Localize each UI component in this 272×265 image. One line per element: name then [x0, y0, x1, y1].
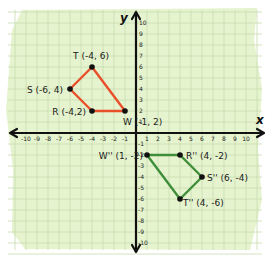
x-tick-label: 1 [145, 135, 149, 142]
y-axis-label: y [120, 11, 129, 25]
vertex-label: W'' (1, -2) [99, 151, 143, 161]
y-tick-label: 10 [139, 19, 147, 26]
y-tick-label: -5 [138, 184, 144, 191]
x-tick-label: -8 [45, 135, 51, 142]
y-tick-label: -10 [138, 239, 148, 246]
vertex-label: S'' (6, -4) [207, 173, 248, 183]
y-tick-label: 9 [139, 30, 143, 37]
x-tick-label: 7 [211, 135, 215, 142]
x-tick-label: 4 [178, 135, 182, 142]
x-tick-label: 9 [233, 135, 237, 142]
vertex-label: W (-1, 2) [123, 117, 162, 127]
y-tick-label: 5 [139, 74, 143, 81]
vertex-point [89, 108, 95, 114]
y-tick-label: 2 [139, 107, 143, 114]
x-tick-label: -5 [78, 135, 84, 142]
y-tick-label: -8 [138, 217, 144, 224]
x-axis-label: x [255, 113, 265, 127]
x-tick-label: -7 [56, 135, 62, 142]
vertex-point [67, 86, 73, 92]
x-tick-label: 10 [242, 135, 250, 142]
x-tick-label: 5 [189, 135, 193, 142]
y-tick-label: -1 [138, 140, 144, 147]
vertex-label: T (-4, 6) [72, 51, 109, 61]
vertex-label: R (-4,2) [52, 107, 86, 117]
x-tick-label: -9 [34, 135, 40, 142]
coordinate-plane-figure: xy -10-9-8-7-6-5-4-3-2-11234567891012345… [0, 0, 272, 265]
vertex-label: R'' (4, -2) [186, 151, 228, 161]
x-tick-label: 6 [200, 135, 204, 142]
x-tick-label: 8 [222, 135, 226, 142]
y-tick-label: 7 [139, 52, 143, 59]
y-tick-label: -4 [138, 173, 144, 180]
y-tick-label: 3 [139, 96, 143, 103]
x-tick-label: 2 [156, 135, 160, 142]
x-tick-label: -2 [111, 135, 117, 142]
vertex-label: T'' (4, -6) [182, 198, 224, 208]
vertex-point [144, 152, 150, 158]
x-tick-label: -4 [89, 135, 95, 142]
vertex-point [89, 64, 95, 70]
vertex-point [177, 152, 183, 158]
vertex-point [177, 196, 183, 202]
y-tick-label: 8 [139, 41, 143, 48]
y-tick-label: -6 [138, 195, 144, 202]
x-tick-label: -3 [100, 135, 106, 142]
x-tick-label: -10 [21, 135, 31, 142]
x-tick-label: -1 [122, 135, 128, 142]
vertex-point [199, 174, 205, 180]
vertex-point [122, 108, 128, 114]
y-tick-label: -3 [138, 162, 144, 169]
y-tick-label: -9 [138, 228, 144, 235]
y-tick-label: -7 [138, 206, 144, 213]
vertex-label: S (-6, 4) [27, 85, 63, 95]
coordinate-plane: xy -10-9-8-7-6-5-4-3-2-11234567891012345… [0, 0, 272, 265]
y-tick-label: 4 [139, 85, 143, 92]
x-tick-label: -6 [67, 135, 73, 142]
y-tick-label: 6 [139, 63, 143, 70]
x-tick-label: 3 [167, 135, 171, 142]
